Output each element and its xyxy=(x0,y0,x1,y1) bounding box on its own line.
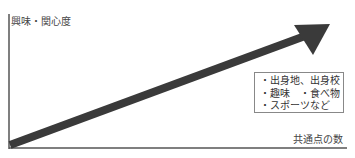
legend-item-hobby-food: ・趣味 ・食べ物 xyxy=(260,88,343,101)
y-axis-label: 興味・関心度 xyxy=(11,13,71,28)
legend-item-hometown: ・出身地、出身校 xyxy=(260,75,343,88)
legend-item-sports: ・スポーツなど xyxy=(260,100,343,113)
common-points-box: ・出身地、出身校 ・趣味 ・食べ物 ・スポーツなど xyxy=(254,72,344,113)
x-axis-label: 共通点の数 xyxy=(293,131,343,146)
